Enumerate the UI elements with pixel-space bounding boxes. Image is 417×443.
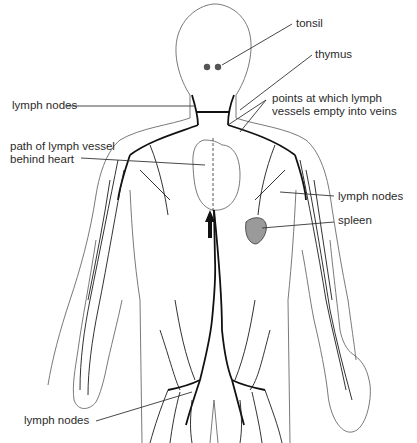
label-tonsil: tonsil xyxy=(296,17,323,30)
label-path-lymph-vessel: path of lymph vessel behind heart xyxy=(10,140,115,165)
tonsils xyxy=(204,64,221,70)
lymphatic-vessels xyxy=(80,95,352,443)
spleen xyxy=(246,218,267,244)
label-thymus: thymus xyxy=(315,48,352,61)
label-points-veins: points at which lymph vessels empty into… xyxy=(272,92,397,117)
label-lymph-nodes-armpit: lymph nodes xyxy=(338,190,403,203)
label-points-line1: points at which lymph xyxy=(272,92,397,105)
label-path-line2: behind heart xyxy=(10,153,115,166)
label-lymph-nodes-groin: lymph nodes xyxy=(24,414,89,427)
label-lymph-nodes-neck: lymph nodes xyxy=(12,99,77,112)
label-spleen: spleen xyxy=(338,214,372,227)
label-points-line2: vessels empty into veins xyxy=(272,105,397,118)
heart xyxy=(193,140,240,210)
label-path-line1: path of lymph vessel xyxy=(10,140,115,153)
